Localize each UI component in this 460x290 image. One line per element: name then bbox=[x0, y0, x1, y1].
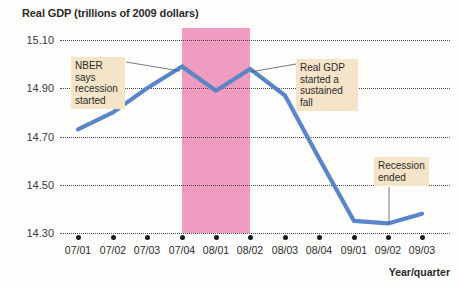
annotation-nber-line-2: recession bbox=[75, 83, 121, 95]
annotation-sustained-fall: Real GDP started a sustained fall bbox=[296, 59, 358, 111]
annotation-ended-line-2: ended bbox=[378, 172, 425, 184]
x-tick-dot-10 bbox=[420, 235, 425, 240]
annotation-fall-line-1: Real GDP bbox=[300, 62, 354, 74]
x-tick-label-10: 09/03 bbox=[402, 244, 442, 256]
x-tick-dot-0 bbox=[76, 235, 81, 240]
annotation-nber-recession-started: NBER says recession started bbox=[71, 57, 125, 109]
x-tick-dot-7 bbox=[317, 235, 322, 240]
annotation-recession-ended: Recession ended bbox=[374, 157, 429, 186]
y-tick-label-2: 14.70 bbox=[8, 131, 54, 143]
annotation-fall-line-2: started a bbox=[300, 74, 354, 86]
x-tick-dot-8 bbox=[352, 235, 357, 240]
y-tick-label-1: 14.90 bbox=[8, 82, 54, 94]
x-tick-dot-9 bbox=[386, 235, 391, 240]
x-tick-dot-3 bbox=[180, 235, 185, 240]
annotation-ended-line-1: Recession bbox=[378, 160, 425, 172]
y-axis: 15.10 14.90 14.70 14.50 14.30 bbox=[8, 40, 54, 240]
annotation-nber-line-1: NBER says bbox=[75, 60, 121, 83]
x-axis-title: Year/quarter bbox=[389, 266, 450, 278]
y-tick-label-4: 14.30 bbox=[8, 227, 54, 239]
leader-line-sustained-fall bbox=[250, 64, 296, 72]
y-tick-label-3: 14.50 bbox=[8, 179, 54, 191]
x-tick-dot-6 bbox=[283, 235, 288, 240]
annotation-fall-line-3: sustained fall bbox=[300, 85, 354, 108]
x-tick-dot-4 bbox=[214, 235, 219, 240]
page-title: Real GDP (trillions of 2009 dollars) bbox=[22, 7, 199, 19]
x-tick-label-5: 08/02 bbox=[230, 244, 270, 256]
x-tick-label-7: 08/04 bbox=[299, 244, 339, 256]
annotation-nber-line-3: started bbox=[75, 95, 121, 107]
x-tick-dot-5 bbox=[248, 235, 253, 240]
y-tick-label-0: 15.10 bbox=[8, 34, 54, 46]
x-tick-label-2: 07/03 bbox=[127, 244, 167, 256]
leader-line-nber bbox=[126, 62, 180, 71]
chart-figure: Real GDP (trillions of 2009 dollars) 15.… bbox=[0, 0, 460, 290]
x-tick-dot-1 bbox=[111, 235, 116, 240]
x-tick-label-0: 07/01 bbox=[58, 244, 98, 256]
x-tick-dot-2 bbox=[145, 235, 150, 240]
